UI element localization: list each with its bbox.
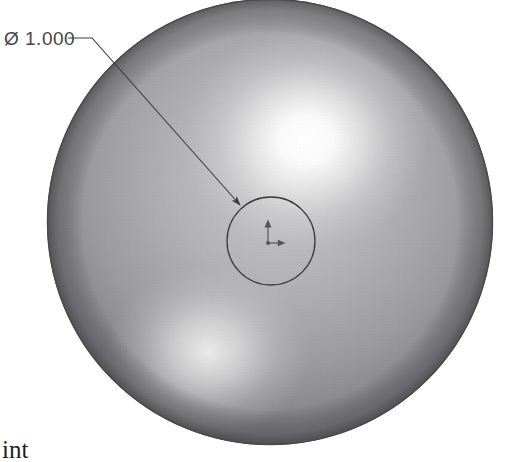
bottom-caption-text: int	[2, 436, 28, 462]
drawing-canvas[interactable]: Ø 1.000 int	[0, 0, 507, 462]
origin-point	[267, 242, 270, 245]
sphere-rim-shading	[47, 0, 493, 445]
sphere-group[interactable]	[47, 0, 493, 462]
engineering-drawing-page: Ø 1.000 int	[0, 0, 507, 462]
diameter-dimension-label[interactable]: Ø 1.000	[4, 28, 75, 49]
